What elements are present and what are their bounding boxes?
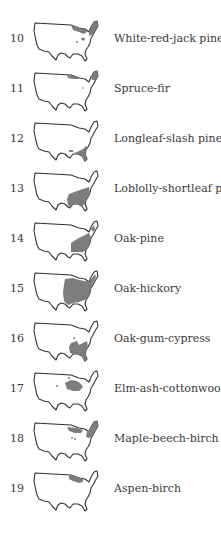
forest-type-label: Longleaf-slash pine — [114, 133, 221, 145]
forest-type-label: Aspen-birch — [114, 483, 181, 495]
us-map-oak-hickory — [31, 269, 103, 313]
us-map-loblolly-shortleaf-pine — [31, 169, 103, 213]
forest-type-label: Maple-beech-birch — [114, 433, 219, 445]
us-map-aspen-birch — [31, 469, 103, 513]
us-map-longleaf-slash-pine — [31, 119, 103, 163]
map-number: 12 — [10, 133, 30, 145]
forest-type-label: White-red-jack pine — [114, 33, 221, 45]
us-map-oak-pine — [31, 219, 103, 263]
forest-type-label: Oak-hickory — [114, 283, 181, 295]
us-map-elm-ash-cottonwood — [31, 369, 103, 413]
forest-type-label: Oak-pine — [114, 233, 164, 245]
map-number: 13 — [10, 183, 30, 195]
map-number: 11 — [10, 83, 30, 95]
forest-type-row: 19 Aspen-birch — [0, 483, 221, 533]
map-number: 18 — [10, 433, 30, 445]
us-map-maple-beech-birch — [31, 419, 103, 463]
map-number: 15 — [10, 283, 30, 295]
map-number: 19 — [10, 483, 30, 495]
map-number: 10 — [10, 33, 30, 45]
forest-type-label: Spruce-fir — [114, 83, 170, 95]
us-map-white-red-jack-pine — [31, 19, 103, 63]
map-number: 17 — [10, 383, 30, 395]
map-number: 16 — [10, 333, 30, 345]
us-map-spruce-fir — [31, 69, 103, 113]
forest-type-label: Loblolly-shortleaf pine — [114, 183, 221, 195]
us-map-oak-gum-cypress — [31, 319, 103, 363]
map-number: 14 — [10, 233, 30, 245]
forest-type-label: Elm-ash-cottonwood — [114, 383, 221, 395]
forest-type-label: Oak-gum-cypress — [114, 333, 211, 345]
